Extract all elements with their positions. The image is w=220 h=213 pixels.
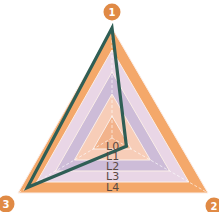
axis-label-1: 1 [109, 7, 116, 18]
axis-badge-2: 2 [206, 198, 220, 213]
level-label-L4: L4 [106, 181, 119, 194]
axis-label-2: 2 [211, 201, 218, 212]
axis-label-3: 3 [3, 199, 10, 210]
axis-badge-3: 3 [0, 196, 15, 213]
radar-chart: L0 L1 L2 L3 L4 1 2 3 [0, 0, 219, 212]
level-labels: L0 L1 L2 L3 L4 [106, 140, 119, 194]
axis-badge-1: 1 [104, 4, 121, 21]
